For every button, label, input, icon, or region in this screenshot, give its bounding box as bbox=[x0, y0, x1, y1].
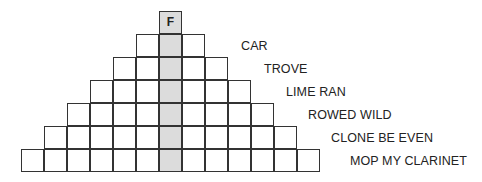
grid-cell[interactable] bbox=[67, 126, 90, 149]
grid-cell[interactable] bbox=[136, 34, 159, 57]
grid-cell[interactable] bbox=[67, 103, 90, 126]
grid-cell[interactable] bbox=[67, 149, 90, 172]
grid-cell[interactable] bbox=[228, 149, 251, 172]
grid-cell[interactable] bbox=[159, 57, 182, 80]
grid-cell[interactable] bbox=[159, 80, 182, 103]
grid-cell[interactable] bbox=[113, 149, 136, 172]
grid-cell[interactable] bbox=[159, 103, 182, 126]
cell-letter: F bbox=[160, 15, 181, 29]
clue-row-5: ROWED WILD bbox=[308, 108, 392, 122]
grid-cell[interactable] bbox=[44, 126, 67, 149]
grid-cell[interactable] bbox=[251, 103, 274, 126]
grid-cell[interactable] bbox=[113, 103, 136, 126]
grid-cell[interactable] bbox=[297, 149, 320, 172]
grid-cell[interactable] bbox=[274, 126, 297, 149]
grid-cell[interactable] bbox=[113, 80, 136, 103]
grid-cell[interactable] bbox=[228, 80, 251, 103]
grid-cell[interactable] bbox=[251, 126, 274, 149]
grid-cell[interactable] bbox=[182, 80, 205, 103]
grid-cell[interactable] bbox=[159, 34, 182, 57]
grid-cell[interactable] bbox=[90, 149, 113, 172]
grid-cell[interactable] bbox=[90, 126, 113, 149]
grid-cell[interactable]: F bbox=[159, 11, 182, 34]
clue-row-3: TROVE bbox=[264, 62, 308, 76]
grid-cell[interactable] bbox=[44, 149, 67, 172]
grid-cell[interactable] bbox=[251, 149, 274, 172]
grid-cell[interactable] bbox=[21, 149, 44, 172]
grid-cell[interactable] bbox=[182, 126, 205, 149]
grid-cell[interactable] bbox=[113, 126, 136, 149]
grid-cell[interactable] bbox=[182, 103, 205, 126]
grid-cell[interactable] bbox=[136, 80, 159, 103]
grid-cell[interactable] bbox=[182, 149, 205, 172]
grid-cell[interactable] bbox=[136, 149, 159, 172]
grid-cell[interactable] bbox=[90, 103, 113, 126]
grid-cell[interactable] bbox=[228, 103, 251, 126]
grid-cell[interactable] bbox=[159, 126, 182, 149]
grid-cell[interactable] bbox=[205, 103, 228, 126]
grid-cell[interactable] bbox=[136, 57, 159, 80]
grid-cell[interactable] bbox=[205, 126, 228, 149]
clue-row-6: CLONE BE EVEN bbox=[331, 131, 433, 145]
grid-cell[interactable] bbox=[274, 149, 297, 172]
grid-cell[interactable] bbox=[159, 149, 182, 172]
grid-cell[interactable] bbox=[205, 80, 228, 103]
grid-cell[interactable] bbox=[136, 103, 159, 126]
clue-row-4: LIME RAN bbox=[286, 85, 346, 99]
grid-cell[interactable] bbox=[182, 34, 205, 57]
grid-cell[interactable] bbox=[136, 126, 159, 149]
grid-cell[interactable] bbox=[182, 57, 205, 80]
grid-cell[interactable] bbox=[205, 57, 228, 80]
clue-row-2: CAR bbox=[241, 39, 268, 53]
grid-cell[interactable] bbox=[228, 126, 251, 149]
grid-cell[interactable] bbox=[205, 149, 228, 172]
grid-cell[interactable] bbox=[113, 57, 136, 80]
grid-cell[interactable] bbox=[90, 80, 113, 103]
clue-row-7: MOP MY CLARINET bbox=[350, 154, 467, 168]
